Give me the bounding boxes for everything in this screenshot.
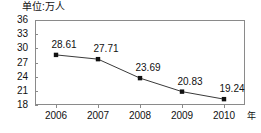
data-point-label: 27.71 — [93, 44, 118, 54]
y-tick-mark — [35, 63, 38, 64]
data-point-label: 20.83 — [177, 77, 202, 87]
y-tick-mark — [35, 20, 38, 21]
y-tick-mark — [35, 91, 38, 92]
series-layer — [0, 0, 261, 133]
y-tick-mark — [35, 48, 38, 49]
x-axis-title: 年 — [247, 111, 256, 122]
data-point-marker — [222, 97, 226, 101]
data-point-marker — [180, 89, 184, 93]
y-tick-mark — [35, 77, 38, 78]
y-tick-mark — [35, 34, 38, 35]
data-point-label: 28.61 — [51, 40, 76, 50]
data-point-marker — [54, 53, 58, 57]
data-point-label: 23.69 — [135, 63, 160, 73]
data-point-marker — [96, 57, 100, 61]
data-point-marker — [138, 76, 142, 80]
y-tick-mark — [35, 105, 38, 106]
data-point-label: 19.24 — [219, 84, 244, 94]
line-chart: 单位:万人 36333027242118 2006200720082009201… — [0, 0, 261, 133]
